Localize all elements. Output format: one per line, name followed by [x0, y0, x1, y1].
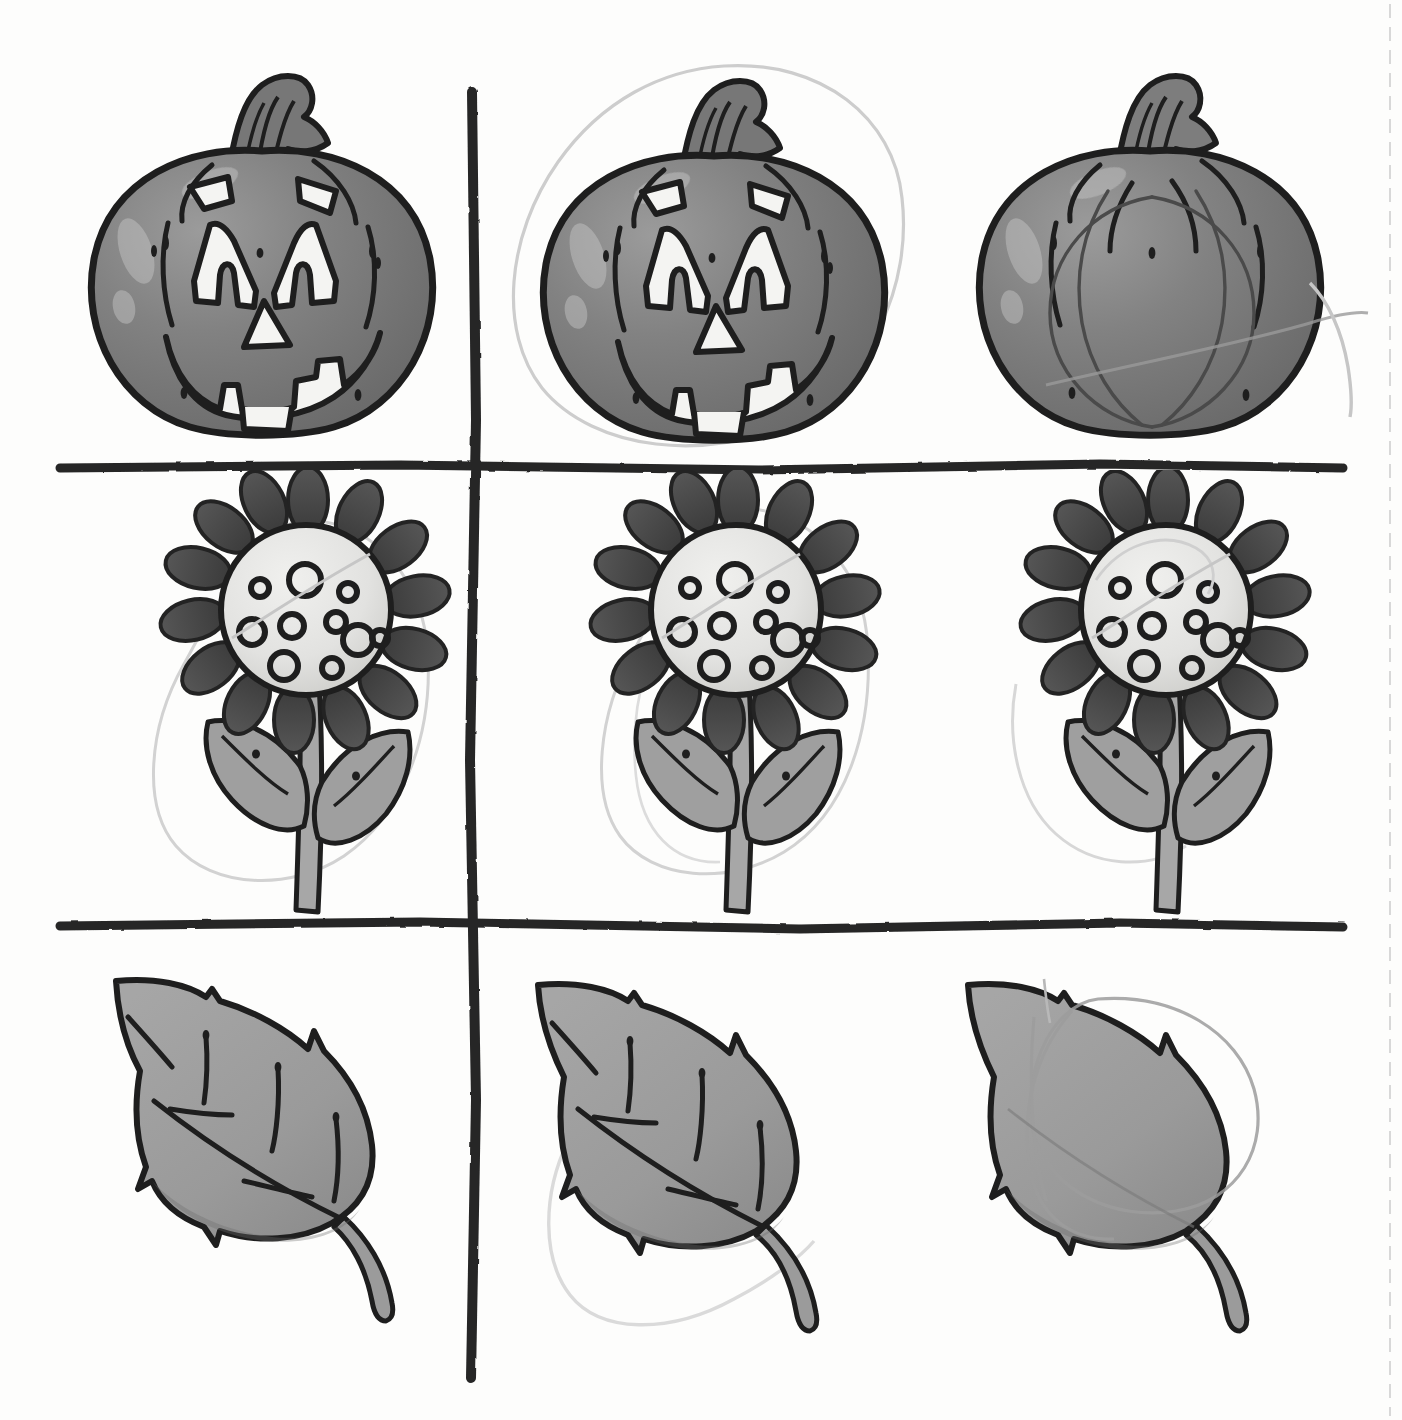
cheek-dot-left	[603, 250, 609, 262]
leaf-stem	[756, 1225, 817, 1331]
mouth-lower-tooth	[694, 412, 744, 436]
mouth-lower-tooth	[242, 407, 292, 431]
cell-r3c1-leaf[interactable]	[92, 955, 462, 1325]
grid-line-h2	[60, 922, 1343, 929]
leaf-left-dot	[682, 750, 690, 759]
leaf-blade	[538, 984, 797, 1253]
cheek-dot-right	[827, 262, 833, 274]
leaf-blade	[116, 980, 373, 1245]
sunflower-disc	[1081, 525, 1251, 695]
pumpkin-body	[543, 155, 884, 440]
leaf-right-dot	[1212, 772, 1220, 781]
leaf-right-dot	[782, 772, 790, 781]
leaf-left-dot	[1112, 750, 1120, 759]
cell-r1c2-jack-o-lantern-circled[interactable]	[502, 48, 922, 460]
grid-line-v1	[470, 92, 476, 1378]
center-dot	[257, 248, 264, 258]
pumpkin-body	[91, 150, 432, 435]
cell-r2c2-sunflower-circled[interactable]	[570, 470, 900, 920]
cell-r2c3-sunflower-arc[interactable]	[1000, 470, 1330, 920]
center-dot	[709, 253, 716, 263]
cell-r3c3-leaf-oval[interactable]	[938, 955, 1328, 1345]
cell-r3c2-leaf-arc[interactable]	[508, 955, 898, 1345]
leaf-right-dot	[352, 772, 360, 781]
leaf-stem	[1186, 1225, 1247, 1331]
leaf-stem	[334, 1217, 393, 1321]
cell-r1c3-plain-pumpkin[interactable]	[950, 55, 1370, 455]
cell-r2c1-sunflower-circled[interactable]	[140, 470, 470, 920]
sunflower-disc	[221, 525, 391, 695]
sunflower-disc	[651, 525, 821, 695]
cheek-dot-right	[375, 257, 381, 269]
vein-upper-1	[204, 1037, 207, 1103]
leaf-left-dot	[252, 750, 260, 759]
cheek-dot-left	[151, 245, 157, 257]
pumpkin-body	[979, 150, 1320, 435]
leaf-blade	[968, 984, 1227, 1253]
cell-r1c1-jack-o-lantern[interactable]	[62, 55, 462, 455]
worksheet-sheet	[0, 0, 1402, 1420]
vein-upper-1	[628, 1043, 631, 1111]
